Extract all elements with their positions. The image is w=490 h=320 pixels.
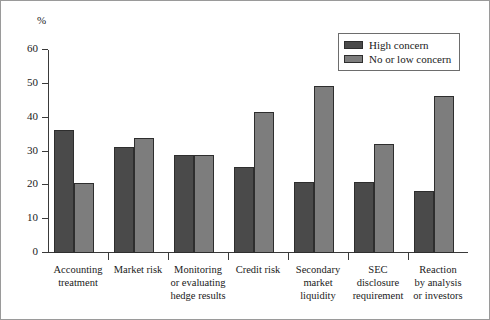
y-axis-tick-label: 20 <box>27 177 38 190</box>
x-axis-category-label-line: treatment <box>48 276 108 289</box>
x-axis-separator-tick <box>288 253 289 260</box>
bar-high-concern <box>114 147 134 253</box>
bar-group <box>408 50 468 253</box>
bar-no-or-low-concern <box>374 144 394 253</box>
bar-no-or-low-concern <box>314 86 334 253</box>
x-axis-category-label-line: Accounting <box>48 263 108 276</box>
x-axis-category-label: Secondarymarketliquidity <box>288 263 348 302</box>
bar-group <box>48 50 108 253</box>
x-axis-category-label-line: liquidity <box>288 289 348 302</box>
x-axis-category-label-line: market <box>288 276 348 289</box>
bar-high-concern <box>294 182 314 253</box>
bar-high-concern <box>354 182 374 253</box>
x-axis-separator-tick <box>168 253 169 260</box>
x-axis-category-label-line: requirement <box>348 289 408 302</box>
bar-group <box>288 50 348 253</box>
y-axis-tick-label: 60 <box>27 42 38 55</box>
x-axis-category-label-line: Reaction <box>408 263 468 276</box>
x-axis-category-label-line: by analysis <box>408 276 468 289</box>
bar-high-concern <box>414 191 434 253</box>
bar-chart-figure: % 0102030405060 AccountingtreatmentMarke… <box>0 0 490 320</box>
x-axis-category-label-line: or investors <box>408 289 468 302</box>
y-axis-tick-label: 0 <box>33 245 39 258</box>
x-axis-separator-tick <box>408 253 409 260</box>
x-axis-separator-tick <box>108 253 109 260</box>
legend-label-no-or-low-concern: No or low concern <box>369 53 451 66</box>
bar-group <box>228 50 288 253</box>
plot-area: 0102030405060 <box>48 50 468 253</box>
x-axis-category-label: SECdisclosurerequirement <box>348 263 408 302</box>
bar-no-or-low-concern <box>254 112 274 253</box>
y-axis-tick-label: 30 <box>27 144 38 157</box>
legend-entry-no-or-low-concern: No or low concern <box>344 52 451 66</box>
x-axis-category-label: Credit risk <box>228 263 288 276</box>
x-axis-category-label-line: SEC <box>348 263 408 276</box>
x-axis-separator-tick <box>228 253 229 260</box>
x-axis-category-label: Monitoringor evaluatinghedge results <box>168 263 228 302</box>
x-axis-category-label: Accountingtreatment <box>48 263 108 289</box>
legend-entry-high-concern: High concern <box>344 38 451 52</box>
x-axis-category-label-line: disclosure <box>348 276 408 289</box>
legend-label-high-concern: High concern <box>369 39 429 52</box>
legend-swatch-no-or-low-concern <box>344 55 363 63</box>
y-axis-tick-label: 40 <box>27 110 38 123</box>
bar-no-or-low-concern <box>194 155 214 253</box>
x-axis-category-label: Reactionby analysisor investors <box>408 263 468 302</box>
bar-high-concern <box>54 130 74 253</box>
bar-no-or-low-concern <box>434 96 454 253</box>
y-axis-tick-label: 10 <box>27 211 38 224</box>
x-axis-category-label-line: Monitoring <box>168 263 228 276</box>
x-axis-category-label-line: Credit risk <box>228 263 288 276</box>
bar-no-or-low-concern <box>134 138 154 253</box>
bar-high-concern <box>174 155 194 253</box>
legend-swatch-high-concern <box>344 41 363 49</box>
x-axis-category-label-line: Market risk <box>108 263 168 276</box>
bar-group <box>108 50 168 253</box>
y-axis-unit-label: % <box>37 15 46 26</box>
x-axis-category-label-line: hedge results <box>168 289 228 302</box>
x-axis-category-label-line: or evaluating <box>168 276 228 289</box>
bar-no-or-low-concern <box>74 183 94 253</box>
x-axis-category-label-line: Secondary <box>288 263 348 276</box>
chart-legend: High concern No or low concern <box>338 33 460 71</box>
x-axis-separator-tick <box>348 253 349 260</box>
x-axis-labels: AccountingtreatmentMarket riskMonitoring… <box>48 263 468 315</box>
bar-group <box>168 50 228 253</box>
bar-high-concern <box>234 167 254 253</box>
y-axis-tick-label: 50 <box>27 76 38 89</box>
x-axis-category-label: Market risk <box>108 263 168 276</box>
bar-group <box>348 50 408 253</box>
